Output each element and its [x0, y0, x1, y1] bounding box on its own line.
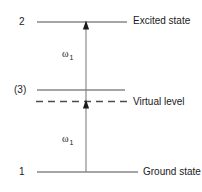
- transition-label-lower: ω1: [62, 133, 74, 148]
- level-number-intermediate: (3): [14, 84, 26, 95]
- omega-subscript-upper: 1: [69, 54, 74, 61]
- omega-symbol-lower: ω: [62, 133, 69, 144]
- omega-symbol-upper: ω: [62, 48, 69, 59]
- level-label-virtual-level: Virtual level: [133, 96, 185, 107]
- transition-label-upper: ω1: [62, 48, 74, 63]
- energy-level-diagram: 2 (3) 1 Excited state Virtual level Grou…: [0, 0, 202, 192]
- omega-subscript-lower: 1: [69, 139, 74, 146]
- level-number-ground: 1: [19, 166, 25, 177]
- level-label-ground-state: Ground state: [143, 166, 201, 177]
- level-number-excited: 2: [19, 16, 25, 27]
- level-label-excited-state: Excited state: [133, 15, 190, 26]
